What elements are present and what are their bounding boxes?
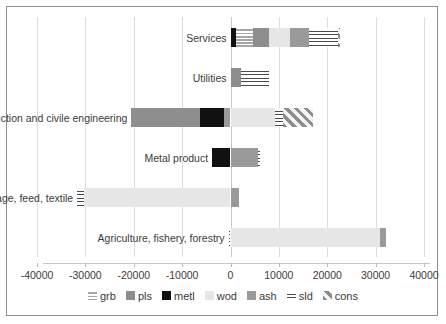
x-axis-line bbox=[43, 263, 430, 264]
legend-label: ash bbox=[259, 290, 277, 302]
legend-swatch-icon bbox=[287, 291, 296, 300]
category-label: Services bbox=[0, 32, 227, 44]
bar-segment-sld bbox=[77, 188, 84, 207]
category-label: Construction and civile engineering bbox=[0, 112, 127, 124]
legend-label: cons bbox=[335, 290, 358, 302]
gridline bbox=[327, 17, 328, 257]
gridline bbox=[424, 17, 425, 257]
bar-segment-cons bbox=[338, 28, 340, 47]
legend-label: metl bbox=[174, 290, 195, 302]
tick-mark bbox=[182, 263, 183, 267]
category-label: Agriculture, fishery, forestry bbox=[0, 232, 225, 244]
legend-swatch-icon bbox=[205, 291, 214, 300]
category-label: Utilities bbox=[0, 72, 227, 84]
legend-label: grb bbox=[100, 290, 116, 302]
bar-segment-ash bbox=[231, 188, 239, 207]
tick-mark bbox=[279, 263, 280, 267]
bar-segment-sld bbox=[275, 108, 282, 127]
legend-label: wod bbox=[217, 290, 237, 302]
legend-swatch-icon bbox=[247, 291, 256, 300]
bar-segment-pls bbox=[253, 28, 268, 47]
legend-item-ash[interactable]: ash bbox=[247, 289, 277, 302]
legend-swatch-icon bbox=[126, 291, 135, 300]
bar-segment-ash bbox=[224, 108, 231, 127]
bar-segment-wod bbox=[269, 28, 291, 47]
x-tick-label: 40000 bbox=[394, 269, 446, 281]
legend-item-grb[interactable]: grb bbox=[88, 289, 116, 302]
gridline bbox=[134, 17, 135, 257]
bar-segment-sld bbox=[309, 28, 338, 47]
bar-segment-sld bbox=[241, 68, 270, 87]
gridline bbox=[182, 17, 183, 257]
bar-segment-wod bbox=[84, 188, 230, 207]
tick-mark bbox=[327, 263, 328, 267]
bar-segment-ash bbox=[290, 28, 308, 47]
category-label: Food, beverage, feed, textile bbox=[0, 192, 73, 204]
tick-mark bbox=[37, 263, 38, 267]
bar-segment-metl bbox=[200, 108, 224, 127]
legend-item-sld[interactable]: sld bbox=[287, 289, 313, 302]
bar-segment-cons bbox=[283, 108, 313, 127]
gridline bbox=[37, 17, 38, 257]
tick-mark bbox=[376, 263, 377, 267]
category-label: Metal product bbox=[0, 152, 208, 164]
bar-segment-pls bbox=[231, 68, 241, 87]
bar-segment-ash bbox=[380, 228, 386, 247]
tick-mark bbox=[134, 263, 135, 267]
legend-swatch-icon bbox=[162, 291, 171, 300]
legend-item-pls[interactable]: pls bbox=[126, 289, 152, 302]
bar-segment-pls bbox=[131, 108, 200, 127]
bar-segment-metl bbox=[212, 148, 230, 167]
tick-mark bbox=[231, 263, 232, 267]
legend-swatch-icon bbox=[323, 291, 332, 300]
gridline bbox=[279, 17, 280, 257]
bar-segment-ash bbox=[231, 148, 259, 167]
legend-label: pls bbox=[138, 290, 152, 302]
legend-label: sld bbox=[299, 290, 313, 302]
bar-segment-wod bbox=[231, 228, 381, 247]
bar-segment-grb bbox=[236, 28, 253, 47]
legend-item-metl[interactable]: metl bbox=[162, 289, 195, 302]
legend-item-cons[interactable]: cons bbox=[323, 289, 358, 302]
chart-frame: ServicesUtilitiesConstruction and civile… bbox=[6, 6, 438, 316]
gridline bbox=[376, 17, 377, 257]
tick-mark bbox=[424, 263, 425, 267]
chart-legend: grbplsmetlwodashsldcons bbox=[0, 288, 446, 302]
legend-item-wod[interactable]: wod bbox=[205, 289, 237, 302]
bar-segment-sld bbox=[258, 148, 260, 167]
bar-segment-wod bbox=[231, 108, 276, 127]
gridline bbox=[231, 17, 232, 257]
gridline bbox=[85, 17, 86, 257]
legend-swatch-icon bbox=[88, 291, 97, 300]
tick-mark bbox=[85, 263, 86, 267]
